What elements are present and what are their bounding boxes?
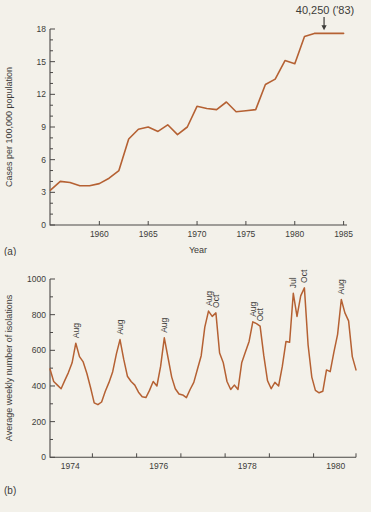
- x-year-label: 1976: [149, 461, 168, 471]
- y-tick-label: 6: [41, 155, 46, 165]
- peak-label: Aug: [71, 323, 81, 338]
- peak-label: Aug: [336, 279, 346, 294]
- peak-label: Aug: [115, 319, 125, 334]
- x-tick-label: 1965: [139, 229, 158, 239]
- chart-b-plot: 020040060080010001974197619781980AugAugA…: [27, 269, 356, 471]
- y-tick-label: 9: [41, 122, 46, 132]
- y-tick-label: 400: [32, 381, 46, 391]
- x-year-label: 1974: [61, 461, 80, 471]
- chart-a: 0369121518196019651970197519801985 Cases…: [0, 0, 371, 256]
- x-tick-label: 1985: [334, 229, 353, 239]
- y-tick-label: 200: [32, 417, 46, 427]
- chart-a-y-axis-title: Cases per 100,000 population: [4, 67, 14, 187]
- peak-label: Oct: [255, 307, 265, 321]
- y-tick-label: 12: [37, 89, 47, 99]
- y-tick-label: 0: [41, 452, 46, 462]
- x-tick-label: 1970: [188, 229, 207, 239]
- y-tick-label: 600: [32, 345, 46, 355]
- chart-a-plot: 0369121518196019651970197519801985: [37, 17, 354, 239]
- x-tick-label: 1960: [90, 229, 109, 239]
- axis: [50, 29, 347, 225]
- peak-label: Oct: [299, 269, 309, 283]
- peak-label: Oct: [211, 294, 221, 308]
- annotation-arrowhead: [321, 25, 326, 30]
- y-tick-label: 0: [41, 220, 46, 230]
- x-tick-label: 1980: [285, 229, 304, 239]
- chart-b: 020040060080010001974197619781980AugAugA…: [0, 256, 371, 512]
- annotation-text: 40,250 ('83): [296, 4, 354, 16]
- panel-b-label: (b): [4, 485, 16, 496]
- data-line: [51, 33, 344, 190]
- peak-label: Jul: [288, 277, 298, 288]
- y-tick-label: 1000: [27, 274, 46, 284]
- x-tick-label: 1975: [236, 229, 255, 239]
- chart-a-x-axis-title: Year: [189, 245, 207, 255]
- x-year-label: 1980: [326, 461, 345, 471]
- two-panel-figure: 0369121518196019651970197519801985 Cases…: [0, 0, 371, 512]
- chart-b-y-axis-title: Average weekly number of isolations: [4, 294, 14, 441]
- y-tick-label: 15: [37, 57, 47, 67]
- panel-a-label: (a): [4, 246, 16, 256]
- y-tick-label: 18: [37, 24, 47, 34]
- x-year-label: 1978: [238, 461, 257, 471]
- peak-label: Aug: [159, 317, 169, 332]
- y-tick-label: 3: [41, 187, 46, 197]
- y-tick-label: 800: [32, 310, 46, 320]
